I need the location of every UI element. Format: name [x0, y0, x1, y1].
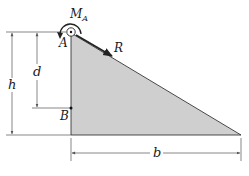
point-b-dot — [70, 107, 73, 110]
label-moment: MA — [69, 7, 88, 23]
diagram-canvas: h d b B A MA R — [0, 0, 249, 176]
hinge-a-center — [70, 31, 72, 33]
label-h: h — [8, 77, 16, 92]
label-b: b — [153, 145, 161, 160]
label-a-point: A — [58, 36, 68, 50]
label-b-point: B — [59, 109, 69, 123]
label-force-r: R — [113, 41, 123, 55]
label-d: d — [33, 64, 41, 79]
triangular-plate — [71, 33, 241, 135]
